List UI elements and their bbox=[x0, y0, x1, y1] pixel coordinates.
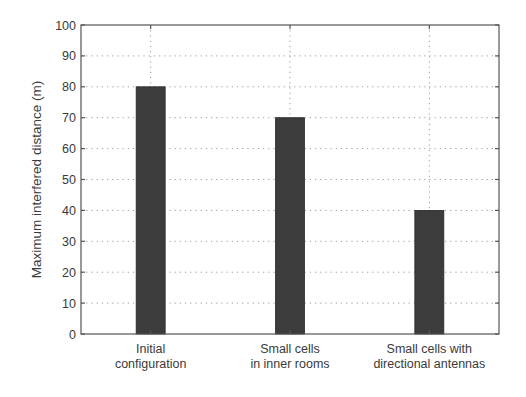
y-tick-label: 30 bbox=[62, 235, 76, 249]
y-axis-label: Maximum interfered distance (m) bbox=[29, 81, 44, 278]
x-category-label: Initialconfiguration bbox=[115, 342, 187, 371]
y-tick-label: 80 bbox=[62, 80, 76, 94]
x-category-label: Small cellsin inner rooms bbox=[250, 342, 329, 371]
y-tick-label: 60 bbox=[62, 142, 76, 156]
y-tick-label: 0 bbox=[69, 328, 76, 342]
y-tick-label: 10 bbox=[62, 297, 76, 311]
bar-chart: 0102030405060708090100 Initialconfigurat… bbox=[0, 0, 526, 397]
bars bbox=[136, 87, 444, 334]
bar bbox=[415, 210, 444, 334]
x-category-labels: InitialconfigurationSmall cellsin inner … bbox=[115, 342, 485, 371]
y-tick-label: 40 bbox=[62, 204, 76, 218]
bar bbox=[276, 118, 305, 334]
bar bbox=[136, 87, 165, 334]
y-tick-label: 70 bbox=[62, 111, 76, 125]
y-tick-label: 100 bbox=[55, 19, 76, 33]
y-tick-label: 20 bbox=[62, 266, 76, 280]
y-tick-label: 50 bbox=[62, 173, 76, 187]
x-category-label: Small cells withdirectional antennas bbox=[373, 342, 485, 371]
y-tick-labels: 0102030405060708090100 bbox=[55, 19, 76, 342]
y-tick-label: 90 bbox=[62, 49, 76, 63]
